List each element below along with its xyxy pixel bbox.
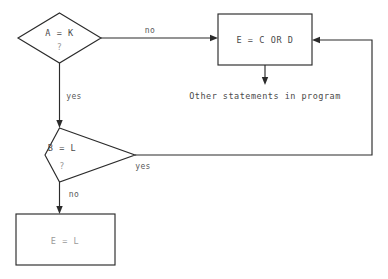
edge-a-k-yes bbox=[56, 63, 62, 128]
edge-a-k-no bbox=[101, 35, 218, 41]
edge-b-l-yes-arrowhead bbox=[312, 37, 320, 43]
edge-a-k-no-arrowhead bbox=[210, 35, 218, 41]
node-decision-a-k: A = K ? bbox=[18, 13, 101, 63]
node-process-e-c-or-d: E = C OR D bbox=[218, 14, 312, 65]
flowchart-canvas: A = K ? E = C OR D Other statements in p… bbox=[0, 0, 388, 279]
decision-b-l-line2: ? bbox=[59, 161, 65, 171]
decision-a-k-line2: ? bbox=[57, 42, 63, 52]
decision-a-k-line1: A = K bbox=[45, 28, 74, 38]
edge-a-k-yes-arrowhead bbox=[56, 120, 62, 128]
node-process-e-l: E = L bbox=[16, 214, 115, 265]
decision-b-l-line1: B = L bbox=[48, 143, 77, 153]
edge-label-b-l-no: no bbox=[69, 190, 79, 199]
edge-box-to-statements-arrowhead bbox=[262, 77, 268, 85]
flowchart-graphic: A = K ? E = C OR D Other statements in p… bbox=[0, 0, 388, 279]
process-e-c-or-d-label: E = C OR D bbox=[236, 35, 293, 45]
annotation-other-statements: Other statements in program bbox=[189, 91, 341, 101]
edge-label-a-k-yes: yes bbox=[66, 92, 82, 101]
edge-b-l-no bbox=[56, 182, 62, 214]
process-e-l-label: E = L bbox=[51, 236, 80, 246]
edge-label-a-k-no: no bbox=[145, 26, 155, 35]
decision-a-k-diamond bbox=[18, 13, 101, 63]
edge-label-b-l-yes: yes bbox=[135, 162, 151, 171]
node-decision-b-l: B = L ? bbox=[45, 128, 135, 182]
edge-b-l-no-arrowhead bbox=[56, 206, 62, 214]
decision-b-l-diamond-left bbox=[45, 128, 135, 182]
edge-box-to-statements bbox=[262, 65, 268, 85]
